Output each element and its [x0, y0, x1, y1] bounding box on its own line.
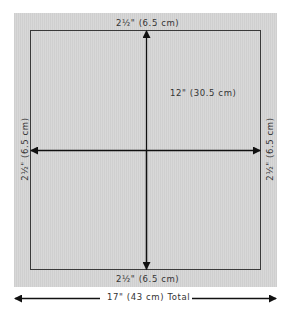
right-margin-label: 2½" (6.5 cm): [265, 117, 275, 180]
inner-height-label: 12" (30.5 cm): [170, 88, 236, 98]
top-margin-label: 2½" (6.5 cm): [116, 18, 179, 28]
total-width-label: 17" (43 cm) Total: [107, 292, 190, 302]
bottom-margin-label: 2½" (6.5 cm): [116, 274, 179, 284]
left-margin-label: 2½" (6.5 cm): [20, 117, 30, 180]
dimension-arrows: [0, 0, 291, 317]
